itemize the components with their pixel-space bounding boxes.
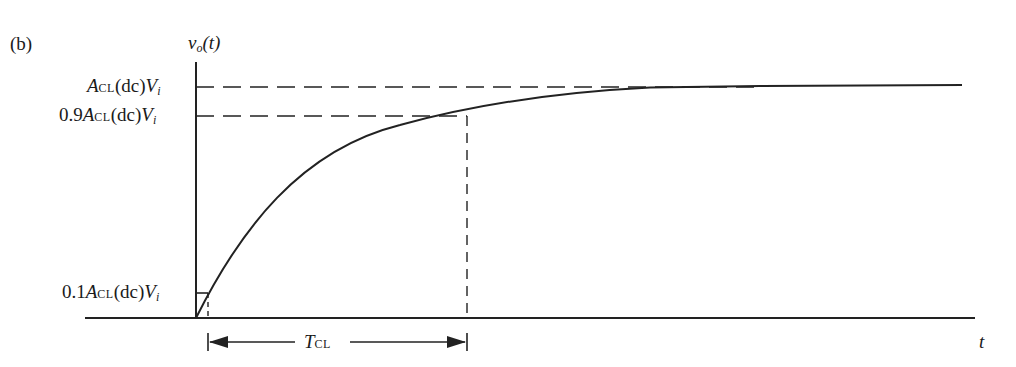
tcl-right-arrowhead bbox=[447, 336, 466, 348]
x-axis-label: t bbox=[979, 332, 984, 351]
y-axis-label: vo(t) bbox=[188, 33, 220, 52]
diagram-graphics bbox=[0, 0, 1016, 367]
ninety-percent-label: 0.9ACL(dc)Vi bbox=[59, 105, 156, 124]
response-curve bbox=[196, 85, 962, 318]
panel-label: (b) bbox=[10, 34, 32, 53]
ten-percent-label: 0.1ACL(dc)Vi bbox=[62, 282, 159, 301]
tcl-label: TCL bbox=[304, 332, 331, 351]
final-value-label: ACL(dc)Vi bbox=[87, 76, 161, 95]
step-response-diagram: (b) vo(t) ACL(dc)Vi 0.9ACL(dc)Vi 0.1ACL(… bbox=[0, 0, 1016, 367]
tcl-left-arrowhead bbox=[209, 336, 228, 348]
